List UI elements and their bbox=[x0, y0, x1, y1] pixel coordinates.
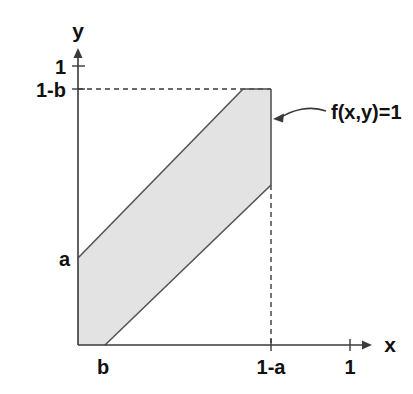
shaded-support-region bbox=[78, 89, 271, 345]
y-tick-label-1: 1 bbox=[55, 56, 66, 78]
annotation-leader-curve bbox=[280, 108, 326, 118]
figure-canvas: y x 1 1-b a b 1-a 1 f(x,y)=1 bbox=[0, 0, 413, 394]
y-tick-label-1-b: 1-b bbox=[36, 79, 66, 101]
annotation-leader-arrowhead bbox=[273, 114, 284, 123]
math-figure: y x 1 1-b a b 1-a 1 f(x,y)=1 bbox=[0, 0, 413, 394]
x-tick-label-b: b bbox=[97, 356, 109, 378]
y-axis-arrowhead bbox=[74, 48, 83, 58]
density-annotation-label: f(x,y)=1 bbox=[331, 101, 402, 123]
y-axis-label: y bbox=[72, 19, 84, 42]
y-tick-label-a: a bbox=[59, 248, 71, 270]
x-tick-label-1-a: 1-a bbox=[257, 356, 287, 378]
x-axis-label: x bbox=[384, 333, 396, 356]
x-axis-arrowhead bbox=[362, 341, 372, 350]
x-tick-label-1: 1 bbox=[344, 356, 355, 378]
